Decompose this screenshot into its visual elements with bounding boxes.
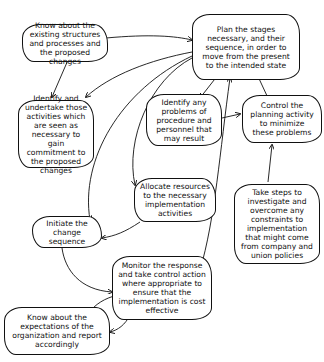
node-text: Monitor the response and take control ac…	[118, 261, 206, 315]
node-text: Know about the existing structures and p…	[28, 21, 102, 66]
node-identify-activities: Identify and undertake those activities …	[18, 100, 94, 168]
node-text: Take steps to investigate and overcome a…	[240, 188, 314, 260]
node-text: Identify any problems of procedure and p…	[152, 98, 216, 143]
node-text: Allocate resources to the necessary impl…	[140, 182, 210, 218]
node-know-expectations: Know about the expectations of the organ…	[4, 307, 110, 355]
node-monitor-response: Monitor the response and take control ac…	[112, 256, 212, 320]
node-initiate-change: Initiate the change sequence	[32, 216, 102, 248]
node-control-planning: Control the planning activity to minimiz…	[242, 95, 322, 143]
node-text: Plan the stages necessary, and their seq…	[198, 25, 294, 70]
node-text: Initiate the change sequence	[38, 219, 96, 246]
node-allocate-resources: Allocate resources to the necessary impl…	[134, 178, 216, 222]
node-text: Know about the expectations of the organ…	[10, 313, 104, 349]
node-identify-problems: Identify any problems of procedure and p…	[146, 94, 222, 146]
node-know-existing: Know about the existing structures and p…	[22, 24, 108, 62]
node-plan-stages: Plan the stages necessary, and their seq…	[192, 14, 300, 80]
node-text: Control the planning activity to minimiz…	[248, 101, 316, 137]
node-text: Identify and undertake those activities …	[24, 94, 88, 175]
node-take-steps: Take steps to investigate and overcome a…	[234, 184, 320, 264]
